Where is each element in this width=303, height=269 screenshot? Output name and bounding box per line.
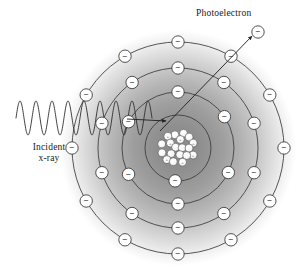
electron-charge-symbol: −: [130, 208, 135, 218]
electron-charge-symbol: −: [176, 222, 181, 232]
electron-charge-symbol: −: [176, 248, 181, 258]
electron-m-0: −: [172, 62, 184, 74]
electron-n-2: −: [264, 89, 276, 101]
atom-diagram: +++++++ −−−−−−−−−−−−−−−−−−−−−−−−−−−−−−: [0, 0, 303, 269]
electron-charge-symbol: −: [256, 26, 261, 36]
nucleon: [185, 144, 193, 152]
photoelectron-label: Photoelectron: [196, 8, 251, 19]
electron-n-8: −: [80, 195, 92, 207]
electron-charge-symbol: −: [176, 86, 181, 96]
electron-n-7: −: [119, 234, 131, 246]
incident-xray-label-line1: Incident: [33, 142, 66, 152]
nucleon: [169, 158, 177, 166]
electron-charge-symbol: −: [267, 195, 272, 205]
electron-charge-symbol: −: [221, 208, 226, 218]
electron-charge-symbol: −: [282, 142, 287, 152]
electron-charge-symbol: −: [226, 167, 231, 177]
proton-charge-symbol: +: [169, 141, 172, 146]
electron-free-photoelectron: −: [252, 26, 264, 38]
proton-charge-symbol: +: [192, 153, 195, 158]
electron-l-0: −: [172, 86, 184, 98]
electron-m-1: −: [218, 76, 230, 88]
electron-charge-symbol: −: [173, 175, 178, 185]
electron-m-6: −: [126, 207, 138, 219]
electron-m-7: −: [96, 167, 108, 179]
electron-n-1: −: [225, 50, 237, 62]
electron-m-9: −: [126, 76, 138, 88]
neutron: [169, 158, 177, 166]
electron-m-5: −: [172, 222, 184, 234]
electron-m-3: −: [248, 167, 260, 179]
electron-n-5: −: [225, 234, 237, 246]
electron-l-5: −: [122, 116, 134, 128]
electron-n-4: −: [264, 195, 276, 207]
electron-n-0: −: [172, 36, 184, 48]
electron-charge-symbol: −: [126, 116, 131, 126]
nucleon: [158, 149, 166, 157]
incident-xray-label-line2: x-ray: [20, 153, 78, 164]
electron-charge-symbol: −: [99, 118, 104, 128]
electron-n-10: −: [80, 89, 92, 101]
electron-l-2: −: [222, 166, 234, 178]
electron-charge-symbol: −: [126, 169, 131, 179]
electron-charge-symbol: −: [176, 62, 181, 72]
electron-charge-symbol: −: [267, 89, 272, 99]
electron-m-8: −: [96, 117, 108, 129]
electron-charge-symbol: −: [252, 167, 257, 177]
nucleon: +: [176, 136, 184, 144]
electron-n-6: −: [172, 248, 184, 260]
electron-charge-symbol: −: [84, 195, 89, 205]
nucleon: [158, 140, 166, 148]
electron-l-4: −: [122, 168, 134, 180]
proton-charge-symbol: +: [192, 141, 195, 146]
electron-charge-symbol: −: [99, 167, 104, 177]
electron-charge-symbol: −: [221, 77, 226, 87]
incident-xray-label: Incident x-ray: [20, 142, 78, 164]
neutron: [185, 144, 193, 152]
electron-m-2: −: [248, 117, 260, 129]
electron-charge-symbol: −: [222, 111, 227, 121]
electron-n-3: −: [278, 142, 290, 154]
neutron: [158, 140, 166, 148]
proton-charge-symbol: +: [179, 137, 182, 142]
electron-charge-symbol: −: [84, 89, 89, 99]
electron-m-4: −: [218, 207, 230, 219]
electron-charge-symbol: −: [123, 51, 128, 61]
electron-k-0: −: [169, 175, 181, 187]
electron-charge-symbol: −: [252, 118, 257, 128]
electron-n-11: −: [119, 50, 131, 62]
electron-charge-symbol: −: [176, 198, 181, 208]
nucleon: +: [179, 158, 187, 166]
electron-charge-symbol: −: [176, 36, 181, 46]
electron-charge-symbol: −: [130, 77, 135, 87]
proton-charge-symbol: +: [181, 160, 184, 165]
photoelectric-effect-figure: +++++++ −−−−−−−−−−−−−−−−−−−−−−−−−−−−−− P…: [0, 0, 303, 269]
neutron: [158, 149, 166, 157]
electron-l-1: −: [218, 110, 230, 122]
proton-charge-symbol: +: [166, 157, 169, 162]
electron-l-3: −: [172, 198, 184, 210]
electron-charge-symbol: −: [229, 234, 234, 244]
electron-charge-symbol: −: [123, 234, 128, 244]
proton-charge-symbol: +: [167, 134, 170, 139]
